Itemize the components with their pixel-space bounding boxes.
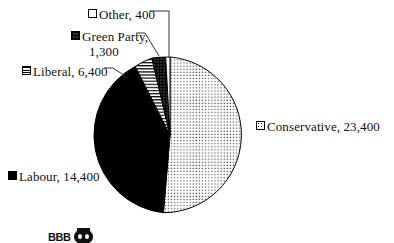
slice-label-conservative-text: Conservative, 23,400 [267,119,380,134]
watermark-text: BBB [48,232,70,243]
other-swatch-icon [88,9,97,18]
slice-label-liberal-text: Liberal, 6,400 [33,64,108,79]
watermark-face-icon [74,228,93,243]
slice-label-green-party-value: 1,300 [89,44,148,59]
slice-label-green-party-text: Green Party, [82,29,148,44]
watermark: BBB [48,228,93,243]
pie-slice-conservative[interactable] [163,57,241,213]
green-party-swatch-icon [71,31,80,40]
conservative-swatch-icon [256,121,265,130]
slice-label-other: Other, 400 [88,5,155,22]
liberal-swatch-icon [22,66,31,75]
slice-label-conservative: Conservative, 23,400 [256,117,380,134]
slice-label-labour-text: Labour, 14,400 [19,169,100,184]
slice-label-labour: Labour, 14,400 [8,167,100,184]
slice-label-other-text: Other, 400 [99,7,155,22]
slice-label-green-party: Green Party, 1,300 [71,27,148,59]
slice-label-liberal: Liberal, 6,400 [22,62,108,79]
labour-swatch-icon [8,171,17,180]
pie-chart: Other, 400 Green Party, 1,300 Liberal, 6… [0,0,394,243]
